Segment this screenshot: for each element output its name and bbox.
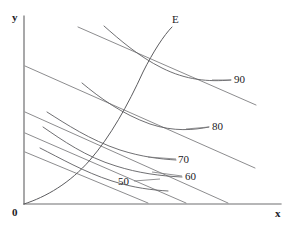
- isoquant-label-80: 80: [212, 121, 223, 132]
- expansion-path-figure: y x 0 E 50 60 70 80 90: [0, 0, 293, 232]
- isoquant-label-60: 60: [185, 171, 196, 182]
- isoquant-curves-group: [40, 26, 231, 191]
- isoquant-curve-80: [82, 83, 209, 130]
- isoquant-label-90: 90: [234, 74, 245, 85]
- isocost-line-5: [78, 27, 256, 105]
- isocost-line-2: [25, 133, 186, 203]
- y-axis-label: y: [12, 12, 18, 23]
- expansion-path-label: E: [172, 14, 179, 25]
- isoquant-curve-70: [47, 112, 176, 160]
- x-axis-label: x: [275, 208, 281, 219]
- leader-line-50: [134, 179, 160, 181]
- isoquant-label-70: 70: [178, 154, 189, 165]
- axes-group: [24, 16, 281, 204]
- isocost-line-4: [25, 66, 255, 168]
- isoquant-curve-60: [43, 127, 182, 177]
- isoquant-label-50: 50: [118, 176, 129, 187]
- figure-canvas: [0, 0, 293, 232]
- isocost-lines-group: [25, 27, 256, 203]
- expansion-path-curve: [24, 27, 172, 204]
- origin-label: 0: [12, 207, 18, 218]
- isoquant-curve-90: [104, 26, 231, 81]
